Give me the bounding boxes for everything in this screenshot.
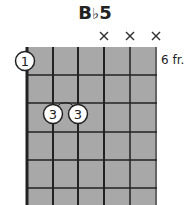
fret-position-label: 6 fr. [161,53,184,67]
fretboard [26,47,157,205]
svg-text:3: 3 [49,107,57,122]
chord-diagram: 1 3 3 [0,0,190,205]
svg-text:1: 1 [21,54,29,69]
finger-dot-3a: 3 [44,105,63,124]
mute-x-icon [100,32,108,40]
mute-x-icon [152,32,160,40]
muted-markers [100,32,160,40]
finger-dot-3b: 3 [69,105,88,124]
mute-x-icon [126,32,134,40]
finger-dot-1: 1 [16,52,35,71]
svg-text:3: 3 [74,107,82,122]
